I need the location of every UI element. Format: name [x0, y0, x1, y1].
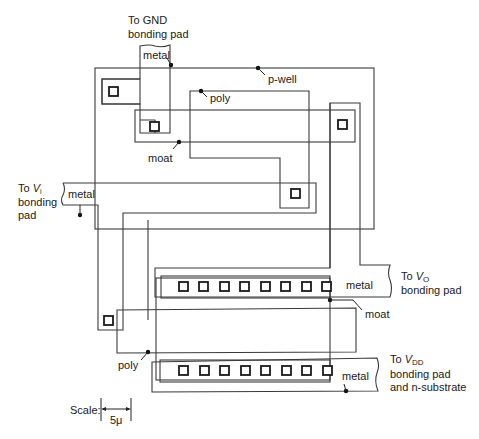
contact-vo-3	[220, 282, 229, 291]
contact-vdd-7	[302, 366, 311, 375]
contact-vo-5	[261, 282, 270, 291]
top-moat-rect	[135, 110, 355, 142]
vo-pad-label: To VO bonding pad	[401, 270, 462, 296]
poly-top-label: poly	[210, 92, 231, 104]
gnd-metal-label: metal	[143, 49, 170, 61]
p-well-leader	[258, 68, 265, 75]
gnd-label-line2: bonding pad	[128, 28, 189, 40]
svg-text:To VO: To VO	[401, 270, 429, 284]
vi-label-to: To	[18, 182, 33, 194]
contact-vo-1	[179, 282, 188, 291]
contact-gnd-1	[109, 87, 118, 96]
contact-gnd-2	[150, 122, 159, 131]
vdd-label-to: To	[390, 353, 405, 365]
contact-drain-top	[338, 120, 347, 129]
svg-text:To VDD: To VDD	[390, 353, 424, 367]
vi-label-line2: bonding	[18, 196, 57, 208]
vdd-label-sub: DD	[412, 358, 424, 367]
poly-top-leader	[201, 91, 207, 97]
svg-text:To Vi: To Vi	[18, 182, 42, 195]
vo-label-sub: O	[423, 275, 429, 284]
vdd-pad-label: To VDD bonding pad and n-substrate	[390, 353, 466, 393]
p-well-label: p-well	[268, 73, 297, 85]
contact-vo-4	[240, 282, 249, 291]
poly-bottom-label: poly	[118, 359, 139, 371]
contact-vi-gate	[291, 189, 300, 198]
contact-poly-bottom	[104, 316, 113, 325]
vi-label-sub: i	[40, 188, 42, 195]
vdd-contacts	[179, 366, 332, 375]
contact-vdd-8	[323, 366, 332, 375]
moat-top-leader	[173, 142, 179, 149]
vi-label-line3: pad	[18, 209, 36, 221]
vdd-metal-label: metal	[342, 370, 369, 382]
contact-vo-2	[199, 282, 208, 291]
top-left-moat	[102, 79, 140, 104]
scale-arrow-right-head	[126, 407, 131, 411]
p-well-rect	[95, 68, 374, 229]
contact-vdd-2	[200, 366, 209, 375]
gnd-pad-label: To GND bonding pad	[128, 14, 189, 40]
vdd-label-line3: and n-substrate	[390, 381, 466, 393]
contact-vdd-5	[261, 366, 270, 375]
scale-bar: Scale: 5μ	[70, 398, 131, 426]
vi-metal-label: metal	[68, 188, 95, 200]
scale-label: Scale:	[70, 404, 101, 416]
vi-metal-shape	[62, 183, 317, 330]
vi-pad-label: To Vi bonding pad	[18, 182, 57, 221]
moat-bottom-label: moat	[365, 308, 389, 320]
contact-vdd-1	[179, 366, 188, 375]
vo-label-to: To	[401, 270, 416, 282]
contact-vo-7	[302, 282, 311, 291]
poly-bottom-shape	[117, 308, 356, 353]
contact-vdd-3	[220, 366, 229, 375]
scale-arrow-left-head	[101, 407, 106, 411]
vo-contacts	[179, 282, 331, 291]
moat-bottom-rect	[156, 278, 330, 380]
vo-metal-label: metal	[346, 279, 373, 291]
cmos-inverter-layout-diagram: To GND bonding pad metal p-well moat pol…	[0, 0, 479, 439]
contact-vdd-6	[282, 366, 291, 375]
scale-value: 5μ	[110, 414, 122, 426]
gnd-label-line1: To GND	[128, 14, 167, 26]
vdd-label-line2: bonding pad	[390, 368, 451, 380]
vo-label-line2: bonding pad	[401, 284, 462, 296]
contact-vo-8	[322, 282, 331, 291]
contact-vdd-4	[241, 366, 250, 375]
contact-vo-6	[281, 282, 290, 291]
moat-top-label: moat	[148, 152, 172, 164]
